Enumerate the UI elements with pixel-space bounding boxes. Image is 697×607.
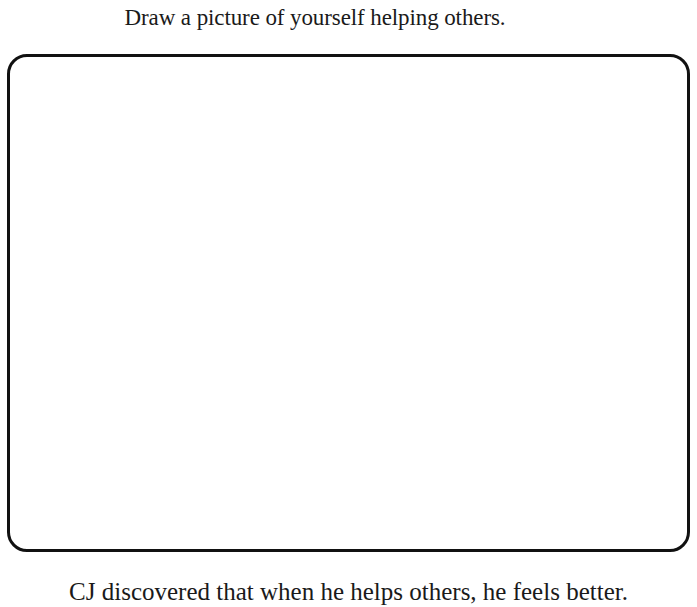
drawing-area[interactable] [7,54,690,552]
instruction-text: Draw a picture of yourself helping other… [0,4,630,32]
caption-text: CJ discovered that when he helps others,… [0,577,697,607]
